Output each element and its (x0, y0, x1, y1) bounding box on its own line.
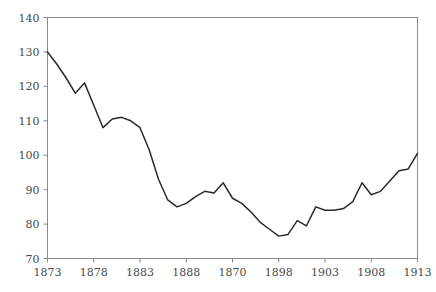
x-tick-label: 1883 (126, 266, 154, 279)
y-tick-label: 100 (19, 149, 40, 162)
x-tick-label: 1888 (172, 266, 200, 279)
y-tick-label: 110 (19, 115, 40, 128)
y-tick-label: 140 (19, 12, 40, 25)
chart-canvas: 708090100110120130140 187318781883188818… (0, 0, 436, 292)
x-axis-tick-labels: 187318781883188818701898190319081913 (34, 266, 432, 279)
y-tick-label: 130 (19, 46, 40, 59)
y-tick-label: 120 (19, 80, 40, 93)
line-chart-figure: 708090100110120130140 187318781883188818… (0, 0, 436, 292)
y-tick-label: 70 (26, 253, 40, 266)
x-tick-label: 1870 (219, 266, 247, 279)
y-tick-label: 80 (26, 218, 40, 231)
chart-background (0, 0, 436, 292)
x-tick-label: 1878 (80, 266, 108, 279)
y-tick-label: 90 (26, 184, 40, 197)
x-tick-label: 1908 (357, 266, 385, 279)
x-tick-label: 1913 (404, 266, 432, 279)
x-tick-label: 1903 (311, 266, 339, 279)
x-tick-label: 1898 (265, 266, 293, 279)
x-tick-label: 1873 (34, 266, 62, 279)
